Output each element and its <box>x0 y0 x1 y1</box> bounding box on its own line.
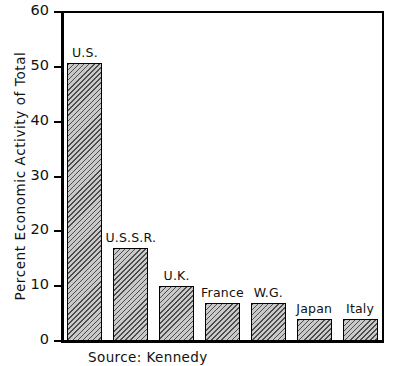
source-caption: Source: Kennedy <box>88 349 208 365</box>
bar-italy <box>343 319 378 341</box>
bar-label-u-s: U.S. <box>35 45 135 60</box>
y-tick-label: 10 <box>31 276 49 292</box>
y-tick-mark <box>54 230 62 232</box>
bar-japan <box>297 319 332 341</box>
plot-area: U.S.U.S.S.R.U.K.FranceW.G.JapanItaly <box>62 12 383 341</box>
bar-label-u-k: U.K. <box>127 268 227 283</box>
y-tick-mark <box>54 121 62 123</box>
y-tick-label: 20 <box>31 221 49 237</box>
bar-u-s <box>67 63 102 341</box>
y-tick-mark <box>54 285 62 287</box>
y-tick-mark <box>54 11 62 13</box>
bar-u-s-s-r <box>113 248 148 341</box>
bar-label-u-s-s-r: U.S.S.R. <box>81 230 181 245</box>
y-tick-label: 60 <box>31 2 49 18</box>
y-tick-mark <box>54 176 62 178</box>
y-tick-label: 0 <box>40 331 49 347</box>
bar-france <box>205 303 240 341</box>
y-tick-label: 40 <box>31 112 49 128</box>
y-tick-mark <box>54 66 62 68</box>
bar-label-italy: Italy <box>310 301 396 316</box>
bar-label-w-g: W.G. <box>218 285 318 300</box>
y-tick-mark <box>54 340 62 342</box>
y-axis-title: Percent Economic Activity of Total <box>12 6 28 346</box>
bar-chart-figure: Percent Economic Activity of Total 01020… <box>0 0 396 366</box>
y-tick-label: 30 <box>31 167 49 183</box>
